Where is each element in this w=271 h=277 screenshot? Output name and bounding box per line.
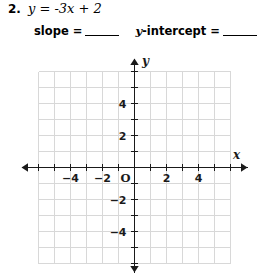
x-tick-label: 4 xyxy=(195,172,203,185)
y-axis-arrow-negative xyxy=(130,266,138,273)
axes xyxy=(22,59,248,273)
y-tick-label: 2 xyxy=(119,130,127,143)
y-axis-arrow-positive xyxy=(130,59,138,66)
x-axis-label: x xyxy=(232,148,241,162)
y-axis-label: y xyxy=(141,54,150,68)
y-tick-label: −4 xyxy=(110,226,127,239)
x-tick-label: −4 xyxy=(62,172,79,185)
x-axis-arrow-negative xyxy=(22,163,29,171)
x-tick-label: −2 xyxy=(94,172,111,185)
worksheet-problem: 2.y = -3x + 2 slope=y-intercept= −4−2244… xyxy=(0,0,271,277)
x-tick-label: 2 xyxy=(163,172,171,185)
origin-label: O xyxy=(120,171,130,185)
y-tick-label: 4 xyxy=(119,98,127,111)
x-axis-arrow-positive xyxy=(241,163,248,171)
coordinate-grid[interactable]: −4−22442−2−4O xy xyxy=(0,0,271,277)
axis-name-labels: xy xyxy=(141,54,241,162)
y-tick-label: −2 xyxy=(110,194,127,207)
